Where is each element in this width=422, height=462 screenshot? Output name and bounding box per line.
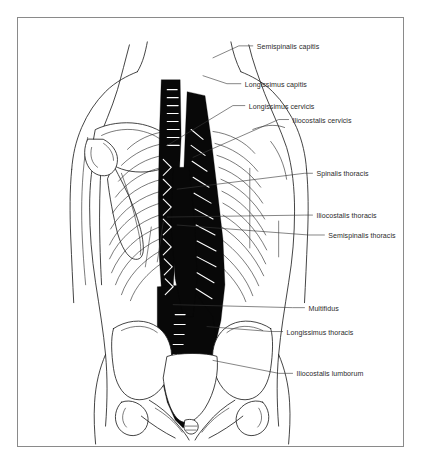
label-iliocostalis-cervicis: Iliocostalis cervicis <box>293 117 352 124</box>
label-longissimus-cervicis: Longissimus cervicis <box>249 103 315 111</box>
label-iliocostalis-thoracis: Iliocostalis thoracis <box>316 212 377 219</box>
label-longissimus-capitis: Longissimus capitis <box>245 81 307 89</box>
label-iliocostalis-lumborum: Iliocostalis lumborum <box>297 370 364 377</box>
leader-longissimus-capitis <box>203 76 241 84</box>
label-longissimus-thoracis: Longissimus thoracis <box>287 329 354 337</box>
label-spinalis-thoracis: Spinalis thoracis <box>316 170 369 178</box>
label-multifidus: Multifidus <box>308 305 339 312</box>
figure-frame: Semispinalis capitis Longissimus capitis… <box>17 17 404 447</box>
anatomy-illustration: Semispinalis capitis Longissimus capitis… <box>18 18 403 446</box>
label-semispinalis-capitis: Semispinalis capitis <box>257 43 320 51</box>
label-semispinalis-thoracis: Semispinalis thoracis <box>328 232 396 240</box>
